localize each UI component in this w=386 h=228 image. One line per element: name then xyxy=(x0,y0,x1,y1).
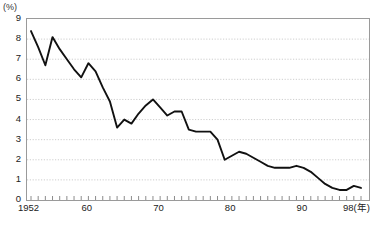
chart-container: (%) 0123456789 19526070809098(年) xyxy=(0,0,386,228)
y-axis-tick-label: 9 xyxy=(1,13,21,23)
x-axis-tick-label: 98(年) xyxy=(343,203,370,213)
y-axis-tick-label: 8 xyxy=(1,33,21,43)
y-axis-unit-label: (%) xyxy=(3,2,17,12)
line-chart-svg xyxy=(27,19,369,200)
y-axis-tick-label: 6 xyxy=(1,73,21,83)
y-axis-tick-label: 2 xyxy=(1,154,21,164)
y-axis-tick-label: 7 xyxy=(1,53,21,63)
x-axis-tick-label: 90 xyxy=(297,203,308,213)
plot-area xyxy=(26,18,370,201)
source-note xyxy=(3,219,4,224)
y-axis-tick-label: 1 xyxy=(1,174,21,184)
x-axis-tick-label: 70 xyxy=(153,203,164,213)
y-axis-tick-label: 4 xyxy=(1,114,21,124)
x-axis-ticks-group xyxy=(31,196,361,200)
y-axis-tick-label: 3 xyxy=(1,134,21,144)
x-axis-tick-label: 80 xyxy=(225,203,236,213)
data-series-line xyxy=(31,31,361,190)
y-axis-tick-label: 5 xyxy=(1,93,21,103)
x-axis-tick-label: 1952 xyxy=(18,203,39,213)
gridlines-group xyxy=(27,39,369,180)
x-axis-tick-label: 60 xyxy=(81,203,92,213)
